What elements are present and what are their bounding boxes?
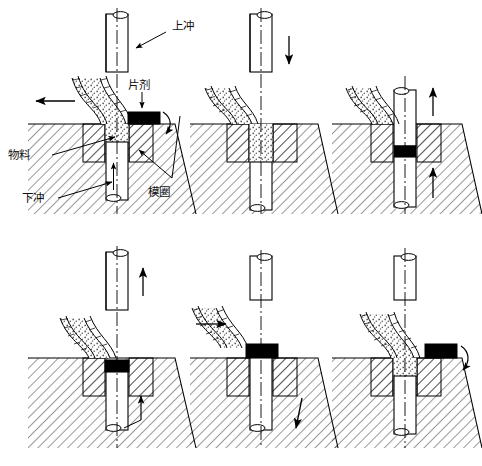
- tablet: [246, 344, 278, 358]
- lower-punch-foot: [394, 202, 409, 209]
- tablet-press-cycle-diagram: 上冲 片剂 物料 下冲 模圈: [0, 0, 482, 466]
- die-ring-right: [417, 124, 441, 162]
- lower-punch-foot: [250, 425, 265, 432]
- upper-punch-tip: [394, 88, 409, 95]
- die-ring-left: [83, 358, 105, 396]
- die-ring-left: [227, 124, 249, 162]
- die-ring-right: [273, 358, 297, 396]
- die-ring-right: [417, 358, 441, 396]
- lower-punch-foot: [106, 425, 121, 432]
- die-ring-right: [273, 124, 297, 162]
- die-ring-left: [371, 124, 393, 162]
- label-tablet: 片剂: [128, 78, 150, 92]
- tablet: [425, 344, 457, 358]
- die-ring-right: [129, 124, 153, 162]
- label-upper-punch: 上冲: [172, 19, 194, 33]
- label-material: 物料: [8, 148, 31, 162]
- die-ring-left: [227, 358, 249, 396]
- die-ring-left: [371, 358, 393, 396]
- lower-punch-foot: [106, 195, 121, 202]
- diagram-canvas: 上冲 片剂 物料 下冲 模圈: [0, 0, 482, 466]
- label-die-ring: 模圈: [148, 185, 170, 199]
- lower-punch-foot: [394, 429, 409, 436]
- lower-punch-foot: [250, 205, 265, 212]
- label-lower-punch: 下冲: [22, 191, 44, 205]
- die-ring-right: [129, 358, 153, 396]
- tablet: [128, 112, 160, 124]
